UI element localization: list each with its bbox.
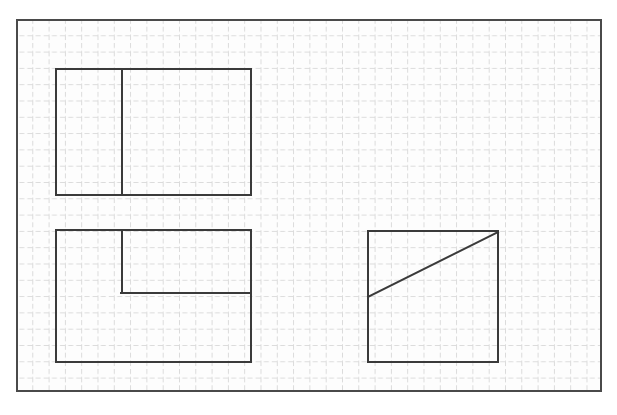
grid-paper-canvas	[0, 0, 617, 415]
figure-drawing-surface	[0, 0, 617, 415]
grid-lines	[16, 19, 602, 392]
